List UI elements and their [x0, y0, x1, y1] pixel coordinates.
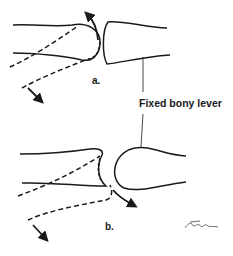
panel-b-label: b.: [105, 221, 114, 232]
panel-a-label: a.: [92, 75, 101, 86]
panel-a-illustration: [10, 15, 170, 100]
artist-signature: [185, 221, 218, 228]
panel-b-illustration: [18, 147, 186, 238]
joint-diagram: a. Fixed bony lever b.: [0, 0, 233, 256]
fixed-bony-lever-label: Fixed bony lever: [139, 97, 222, 109]
